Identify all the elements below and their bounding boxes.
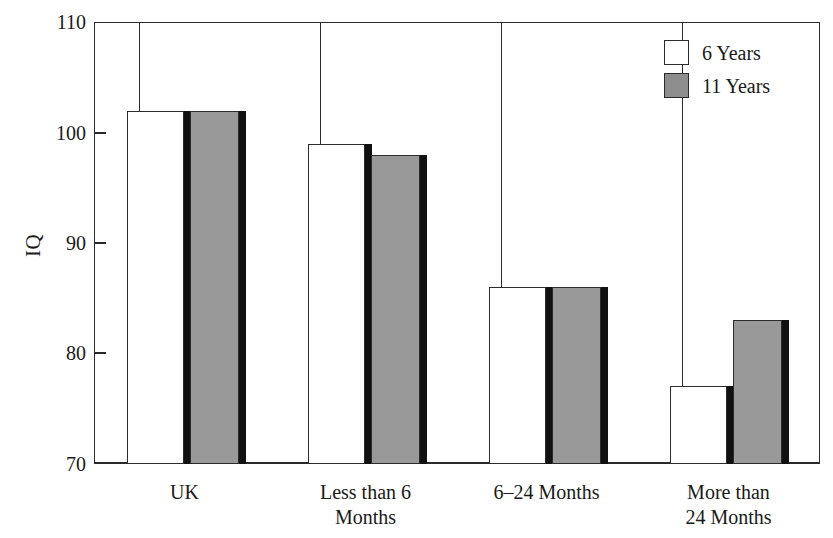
x-tick-label-less-than-6: Less than 6 Months (275, 480, 456, 530)
y-axis-tick-labels: 110 100 90 80 70 (24, 0, 86, 538)
bar-less6-11years (371, 22, 427, 464)
bar-fill-white (308, 144, 365, 464)
legend-item-11-years: 11 Years (664, 69, 814, 102)
bar-shadow (781, 320, 789, 464)
x-tick-label-6-24-months: 6–24 Months (456, 480, 637, 505)
y-tick-label-110: 110 (34, 12, 86, 32)
legend: 6 Years 11 Years (664, 36, 814, 102)
bar-less6-6years (308, 22, 371, 464)
bar-chart: IQ 110 100 90 80 70 (0, 0, 833, 538)
bar-fill-gray (733, 320, 782, 464)
y-tick-label-80: 80 (34, 343, 86, 363)
bar-group-less-than-6-months (275, 22, 456, 464)
bar-fill-white (670, 386, 727, 464)
x-tick-label-uk: UK (94, 480, 275, 505)
legend-swatch-gray (664, 73, 689, 98)
bar-fill-white (127, 111, 184, 464)
y-tick-label-100: 100 (34, 123, 86, 143)
bar-uk-11years (190, 22, 246, 464)
bar-6to24-11years (552, 22, 608, 464)
y-tick-label-90: 90 (34, 233, 86, 253)
x-tick-label-more-than-24: More than 24 Months (637, 480, 820, 530)
bar-fill-gray (371, 155, 420, 464)
bar-6to24-6years (489, 22, 552, 464)
bar-shadow (419, 155, 427, 464)
bar-group-uk (94, 22, 275, 464)
legend-label-11-years: 11 Years (702, 76, 770, 96)
bar-shadow (238, 111, 246, 464)
bar-fill-gray (552, 287, 601, 464)
bar-uk-6years (127, 22, 190, 464)
bar-shadow (600, 287, 608, 464)
legend-label-6-years: 6 Years (702, 43, 761, 63)
bar-group-6-24-months (456, 22, 637, 464)
bar-fill-gray (190, 111, 239, 464)
bar-fill-white (489, 287, 546, 464)
legend-swatch-white (664, 40, 689, 65)
legend-item-6-years: 6 Years (664, 36, 814, 69)
y-tick-label-70: 70 (34, 454, 86, 474)
